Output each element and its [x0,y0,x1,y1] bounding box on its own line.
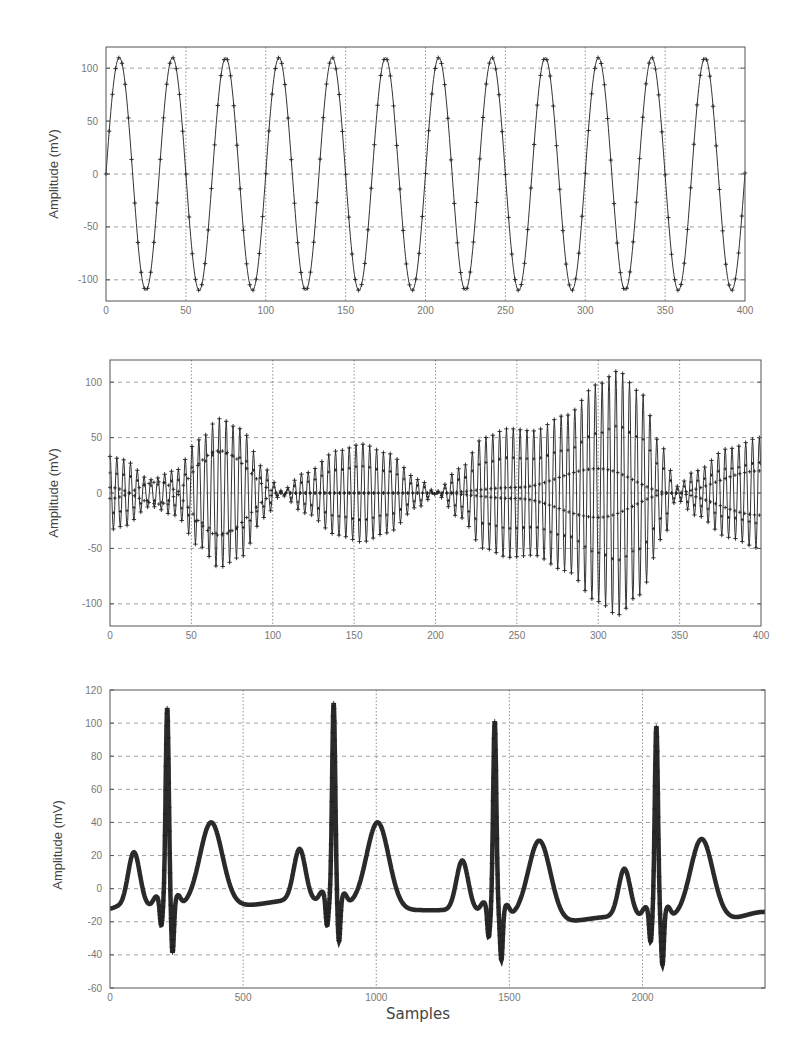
x-axis-label: Samples [386,1005,450,1023]
x-tick-label: 200 [427,630,444,641]
tick-labels: -100-50050100050100150200250300350400 [82,377,770,641]
x-tick-label: 50 [180,305,192,316]
x-tick-label: 1000 [365,992,388,1003]
y-tick-label: 50 [87,116,99,127]
y-tick-label: 50 [91,432,103,443]
x-tick-label: 200 [417,305,434,316]
y-tick-label: -100 [82,598,102,609]
y-tick-label: 120 [85,685,102,696]
axes-frame [110,690,765,988]
x-tick-label: 400 [737,305,754,316]
y-tick-label: 0 [96,488,102,499]
x-tick-label: 150 [346,630,363,641]
x-tick-label: 300 [577,305,594,316]
y-tick-label: -20 [88,916,103,927]
x-tick-label: 2000 [631,992,654,1003]
x-tick-label: 350 [671,630,688,641]
y-axis-label: Amplitude (mV) [50,800,65,890]
sine-wave-chart: -100-50050100050100150200250300350400 Am… [46,47,754,316]
x-tick-label: 300 [590,630,607,641]
y-tick-label: 20 [91,850,103,861]
x-tick-label: 250 [509,630,526,641]
modulated-signal-chart: -100-50050100050100150200250300350400 Am… [46,360,770,641]
y-tick-label: 100 [85,718,102,729]
x-tick-label: 0 [103,305,109,316]
x-tick-label: 350 [657,305,674,316]
y-tick-label: -60 [88,983,103,994]
y-tick-label: 60 [91,784,103,795]
y-tick-label: 100 [85,377,102,388]
x-tick-label: 250 [497,305,514,316]
x-tick-label: 100 [264,630,281,641]
y-tick-label: -50 [84,221,99,232]
x-tick-label: 0 [107,630,113,641]
x-tick-label: 150 [337,305,354,316]
y-tick-label: -100 [78,274,98,285]
ecg-series [110,701,765,967]
grid [110,690,765,988]
ecg-chart: -60-40-200204060801001200500100015002000… [50,685,765,1024]
y-tick-label: 80 [91,751,103,762]
x-tick-label: 400 [753,630,770,641]
x-tick-label: 1500 [498,992,521,1003]
y-tick-label: 0 [92,169,98,180]
x-tick-label: 100 [257,305,274,316]
x-tick-label: 50 [186,630,198,641]
y-tick-label: 100 [81,63,98,74]
y-tick-label: 0 [96,883,102,894]
y-tick-label: -40 [88,949,103,960]
x-tick-label: 0 [107,992,113,1003]
figure: -100-50050100050100150200250300350400 Am… [0,0,810,1044]
x-tick-label: 500 [235,992,252,1003]
y-axis-label: Amplitude (mV) [46,448,61,538]
y-axis-label: Amplitude (mV) [46,129,61,219]
y-tick-label: -50 [88,543,103,554]
y-tick-label: 40 [91,817,103,828]
